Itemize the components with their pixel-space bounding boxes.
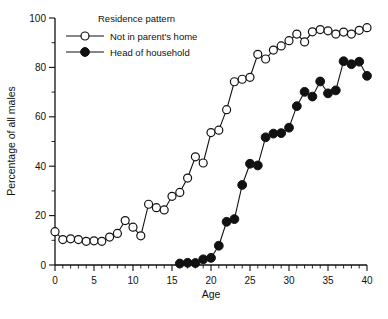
- data-point-open: [121, 217, 129, 225]
- x-tick-label: 35: [322, 275, 334, 286]
- data-point-open: [137, 232, 145, 240]
- data-point-open: [340, 28, 348, 36]
- data-point-open: [98, 237, 106, 245]
- data-point-open: [332, 30, 340, 38]
- data-point-filled: [308, 92, 317, 101]
- data-point-open: [324, 27, 332, 35]
- y-tick-label: 20: [35, 210, 47, 221]
- data-point-open: [238, 75, 246, 83]
- data-point-open: [223, 106, 231, 114]
- data-point-filled: [300, 87, 309, 96]
- data-series-group: [51, 24, 371, 268]
- data-point-open: [74, 236, 82, 244]
- x-tick-label: 30: [283, 275, 295, 286]
- data-point-open: [277, 42, 285, 50]
- data-point-open: [199, 159, 207, 167]
- data-point-open: [301, 38, 309, 46]
- y-tick-label: 40: [35, 161, 47, 172]
- x-tick-label: 0: [52, 275, 58, 286]
- data-point-open: [176, 188, 184, 196]
- data-point-open: [82, 237, 90, 245]
- y-tick-label: 0: [40, 260, 46, 271]
- legend-label: Head of household: [110, 47, 190, 58]
- data-point-filled: [214, 241, 223, 250]
- data-point-open: [215, 126, 223, 134]
- legend-entry-1: Not in parent's home: [66, 31, 197, 42]
- series-1: [51, 24, 371, 246]
- data-point-open: [129, 223, 137, 231]
- x-axis-title: Age: [202, 288, 221, 300]
- x-tick-label: 25: [244, 275, 256, 286]
- data-point-open: [262, 55, 270, 63]
- data-point-filled: [292, 102, 301, 111]
- data-point-open: [59, 236, 67, 244]
- data-point-open: [67, 235, 75, 243]
- data-point-open: [316, 26, 324, 34]
- x-axis: 0510152025303540: [52, 265, 373, 286]
- data-point-open: [51, 228, 59, 236]
- data-point-filled: [199, 255, 208, 264]
- data-point-filled: [285, 123, 294, 132]
- data-point-open: [363, 24, 371, 32]
- data-point-open: [207, 129, 215, 137]
- y-tick-label: 80: [35, 62, 47, 73]
- data-point-filled: [246, 159, 255, 168]
- legend-label: Not in parent's home: [110, 31, 197, 42]
- data-point-open: [347, 30, 355, 38]
- data-point-open: [230, 78, 238, 86]
- data-point-open: [106, 233, 114, 241]
- data-point-filled: [207, 253, 216, 262]
- data-point-filled: [230, 215, 239, 224]
- data-point-filled: [253, 161, 262, 170]
- data-point-open: [191, 153, 199, 161]
- data-point-open: [246, 73, 254, 81]
- data-point-open: [168, 192, 176, 200]
- data-point-filled: [331, 86, 340, 95]
- data-point-open: [152, 204, 160, 212]
- y-tick-label: 100: [29, 13, 46, 24]
- data-point-filled: [355, 57, 364, 66]
- data-point-open: [145, 200, 153, 208]
- data-point-open: [293, 30, 301, 38]
- x-tick-label: 10: [127, 275, 139, 286]
- data-point-open: [269, 46, 277, 54]
- legend-marker-open: [81, 32, 89, 40]
- y-tick-label: 60: [35, 111, 47, 122]
- x-tick-label: 15: [166, 275, 178, 286]
- data-point-open: [355, 26, 363, 34]
- chart-figure: 020406080100 0510152025303540 Percentage…: [0, 0, 388, 319]
- data-point-open: [90, 237, 98, 245]
- x-tick-label: 5: [91, 275, 97, 286]
- line-chart: 020406080100 0510152025303540 Percentage…: [0, 0, 388, 319]
- legend-entry-2: Head of household: [66, 47, 190, 58]
- data-point-filled: [238, 181, 247, 190]
- legend-marker-filled: [81, 48, 90, 57]
- y-axis-title: Percentage of all males: [5, 86, 17, 196]
- data-point-open: [308, 28, 316, 36]
- data-point-filled: [363, 71, 372, 80]
- data-point-open: [254, 50, 262, 58]
- x-tick-label: 40: [361, 275, 373, 286]
- data-point-open: [113, 229, 121, 237]
- x-tick-label: 20: [205, 275, 217, 286]
- data-point-open: [184, 174, 192, 182]
- chart-legend: Residence pattern Not in parent's homeHe…: [66, 13, 197, 58]
- data-point-open: [285, 37, 293, 45]
- data-point-filled: [316, 77, 325, 86]
- legend-title: Residence pattern: [98, 13, 175, 24]
- data-point-open: [160, 206, 168, 214]
- data-point-filled: [277, 129, 286, 138]
